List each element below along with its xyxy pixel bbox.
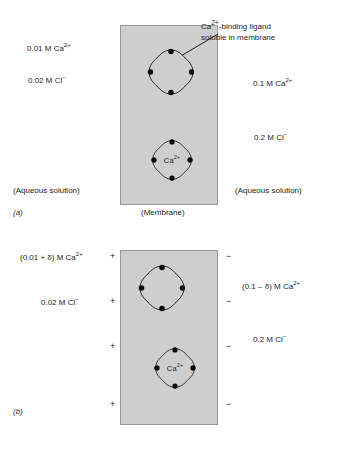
- ligand-shape-icon: [146, 46, 196, 98]
- binding-site-dot: [172, 383, 177, 388]
- binding-site-dot: [168, 90, 174, 96]
- charge-positive: +: [110, 297, 115, 306]
- binding-site-dot: [151, 157, 156, 162]
- binding-site-dot: [169, 139, 174, 144]
- label-right-ca-a: 0.1 M Ca2+: [253, 79, 292, 90]
- charge-negative: −: [226, 342, 231, 351]
- label-left-ca-a: 0.01 M Ca2+: [27, 44, 71, 55]
- binding-site-dot: [159, 306, 165, 312]
- label-right-ca-b: (0.1 – δ) M Ca2+: [242, 282, 300, 293]
- ligand-shape-icon: [153, 345, 197, 391]
- charge-positive: +: [110, 342, 115, 351]
- panel-label-b: (b): [13, 407, 23, 418]
- caption-left-solution-a: (Aqueous solution): [13, 186, 80, 197]
- binding-site-dot: [159, 265, 165, 271]
- ligand-shape-icon: [137, 262, 187, 314]
- panel-a: 0.01 M Ca2+ 0.02 M Cl− 0.1 M Ca2+ 0.2 M …: [0, 0, 347, 225]
- charge-positive: +: [110, 252, 115, 261]
- annotation-line-1: Ca2+-binding ligand: [201, 18, 275, 32]
- panel-b: (0.01 + δ) M Ca2+ 0.02 M Cl− (0.1 – δ) M…: [0, 225, 347, 449]
- binding-site-dot: [189, 69, 195, 75]
- annotation-ligand: Ca2+-binding ligand soluble in membrane: [201, 18, 275, 44]
- label-right-cl-a: 0.2 M Cl−: [254, 133, 287, 144]
- ligand-unbound-a: [146, 46, 196, 98]
- binding-site-dot: [172, 347, 177, 352]
- charge-negative: −: [226, 297, 231, 306]
- label-left-ca-b: (0.01 + δ) M Ca2+: [20, 253, 83, 264]
- binding-site-dot: [154, 365, 159, 370]
- ligand-shape-icon: [150, 137, 194, 183]
- label-right-cl-b: 0.2 M Cl−: [253, 335, 286, 346]
- panel-label-a: (a): [13, 208, 23, 219]
- binding-site-dot: [180, 285, 186, 291]
- binding-site-dot: [169, 175, 174, 180]
- caption-membrane-a: (Membrane): [141, 208, 185, 219]
- ligand-calcium-bound-b: Ca2+: [153, 345, 197, 391]
- ligand-calcium-bound-a: Ca2+: [150, 137, 194, 183]
- binding-site-dot: [139, 285, 145, 291]
- label-left-cl-a: 0.02 M Cl−: [28, 76, 66, 87]
- ligand-unbound-b: [137, 262, 187, 314]
- caption-right-solution-a: (Aqueous solution): [235, 186, 302, 197]
- binding-site-dot: [148, 69, 154, 75]
- charge-positive: +: [110, 400, 115, 409]
- annotation-line-2: soluble in membrane: [201, 32, 275, 44]
- charge-negative: −: [226, 252, 231, 261]
- binding-site-dot: [168, 49, 174, 55]
- label-left-cl-b: 0.02 M Cl−: [41, 298, 79, 309]
- binding-site-dot: [187, 157, 192, 162]
- binding-site-dot: [190, 365, 195, 370]
- charge-negative: −: [226, 400, 231, 409]
